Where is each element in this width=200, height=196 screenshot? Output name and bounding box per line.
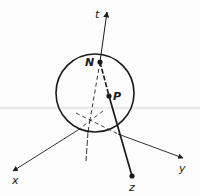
z-point-label: z (128, 181, 135, 194)
diagram-svg: t N P x y z (0, 0, 200, 196)
x-axis-label: x (11, 174, 19, 187)
north-pole-label: N (85, 56, 94, 69)
t-axis (86, 12, 107, 161)
north-pole-point (97, 59, 102, 64)
projection-line (100, 62, 132, 176)
point-p (106, 93, 111, 98)
z-point (129, 173, 134, 178)
t-axis-label: t (95, 8, 100, 21)
point-p-label: P (113, 90, 121, 103)
stereographic-projection-diagram: t N P x y z (0, 0, 200, 196)
y-axis-label: y (178, 162, 186, 175)
